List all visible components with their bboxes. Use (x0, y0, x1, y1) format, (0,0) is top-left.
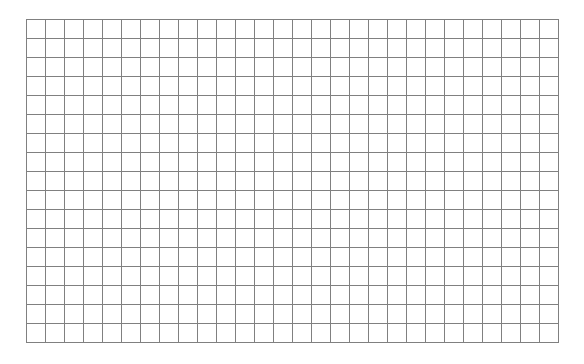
grid-paper (26, 19, 559, 343)
grid-lines (26, 19, 559, 343)
